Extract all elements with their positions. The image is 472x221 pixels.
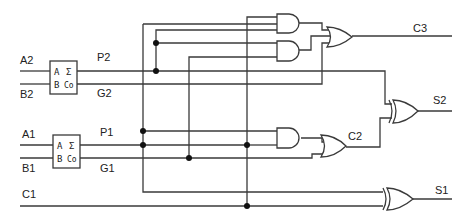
label-c2: C2 [348, 130, 362, 142]
junction-dot [153, 68, 159, 74]
wire-p2-vertical [156, 30, 277, 71]
junction-dot [244, 203, 250, 209]
wire-g1-vertical [189, 57, 277, 158]
label-s1: S1 [435, 184, 448, 196]
wire-and-c2-out [301, 138, 324, 142]
junction-dot [153, 40, 159, 46]
ha2-b-label: B [54, 80, 59, 90]
wire-and1-out [299, 23, 330, 30]
xor-gate-s2 [389, 100, 418, 123]
label-a1: A1 [22, 128, 35, 140]
and-gate-c2 [277, 128, 299, 148]
ha1-sum-label: Σ [69, 141, 74, 151]
label-b1: B1 [22, 162, 35, 174]
label-p1: P1 [100, 126, 113, 138]
ha1-b-label: B [57, 154, 62, 164]
label-c3: C3 [413, 22, 427, 34]
label-s2: S2 [433, 94, 446, 106]
ha2-a-label: A [54, 67, 60, 77]
wire-p2 [77, 71, 392, 104]
wire-c1-vertical [247, 17, 277, 206]
circuit-diagram: A B Σ Co A2 B2 P2 G2 A B Σ Co A1 B1 P1 G… [0, 0, 472, 221]
xor-s1-back-curve [383, 188, 386, 210]
label-a2: A2 [20, 54, 33, 66]
ha2-sum-label: Σ [66, 67, 71, 77]
xor-gate-s1 [383, 188, 413, 210]
ha1-a-label: A [57, 141, 63, 151]
or-gate-c2 [321, 135, 346, 157]
label-b2: B2 [20, 88, 33, 100]
label-p2: P2 [97, 51, 110, 63]
label-c1: C1 [22, 188, 36, 200]
junction-dot [186, 155, 192, 161]
half-adder-1: A B Σ Co A1 B1 P1 G1 C1 [20, 126, 115, 200]
xor-s2-body [393, 100, 418, 123]
label-g1: G1 [100, 162, 115, 174]
wiring [20, 17, 452, 206]
and-gate-c3-bottom [277, 41, 299, 61]
junction-dot [140, 142, 146, 148]
ha2-carry-label: Co [64, 81, 74, 90]
label-g2: G2 [97, 87, 112, 99]
ha1-carry-label: Co [67, 155, 77, 164]
half-adder-2: A B Σ Co A2 B2 P2 G2 [20, 51, 112, 100]
junction-dot [140, 128, 146, 134]
wire-g1-to-or-c2-b [189, 154, 322, 158]
wire-p1-vertical [143, 24, 383, 192]
or-gate-c3 [327, 27, 352, 47]
junction-dot [244, 142, 250, 148]
xor-s1-body [387, 188, 413, 210]
and-gate-c3-top [277, 14, 299, 33]
